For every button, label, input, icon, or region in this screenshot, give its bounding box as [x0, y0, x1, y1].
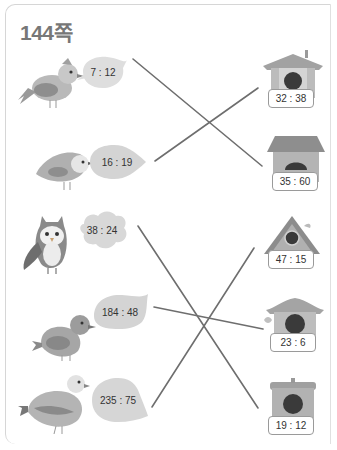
house-ratio-4: 23 : 6	[270, 333, 316, 352]
match-line-1	[133, 59, 262, 166]
songbird-icon	[14, 52, 84, 112]
bird-ratio-4: 184 : 48	[96, 302, 144, 322]
bird-ratio-3: 38 : 24	[82, 220, 122, 240]
bird-ratio-1: 7 : 12	[83, 62, 123, 82]
match-line-3	[138, 226, 258, 408]
bird-ratio-5: 235 : 75	[94, 390, 142, 410]
owl-icon	[18, 212, 78, 276]
house-ratio-1: 32 : 38	[268, 89, 314, 108]
bird-ratio-2: 16 : 19	[94, 152, 140, 172]
house-ratio-3: 47 : 15	[268, 250, 314, 269]
house-ratio-5: 19 : 12	[268, 416, 314, 435]
dove-icon	[32, 140, 92, 192]
house-ratio-2: 35 : 60	[272, 172, 318, 191]
sparrow-icon	[30, 305, 96, 361]
pigeon-icon	[18, 372, 92, 436]
